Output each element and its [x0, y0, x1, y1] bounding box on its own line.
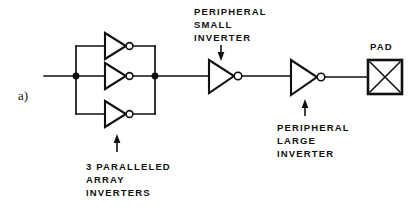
- array-inverters-label-line3: INVERTERS: [86, 187, 151, 198]
- peripheral-small-inverter-label-line1: PERIPHERAL: [194, 6, 267, 17]
- peripheral-large-inverter-label-line1: PERIPHERAL: [277, 122, 350, 133]
- peripheral-small-inverter-triangle: [209, 60, 234, 93]
- array-inverter-1-bubble: [126, 43, 133, 50]
- pad-label: PAD: [370, 41, 393, 52]
- circuit-figure: a) PAD PERIPHERAL SMALL INVERTER PERIPHE…: [0, 0, 415, 211]
- peripheral-large-inverter-label-line3: INVERTER: [277, 148, 334, 159]
- peripheral-large-inverter-label-line2: LARGE: [277, 135, 316, 146]
- peripheral-small-inverter-arrow-down-icon: [218, 52, 225, 61]
- array-inverters-arrow-up-icon: [114, 134, 121, 143]
- peripheral-large-inverter-arrow-up-icon: [302, 99, 309, 108]
- peripheral-large-inverter-bubble: [317, 73, 325, 81]
- peripheral-large-inverter-triangle: [291, 60, 317, 95]
- peripheral-small-inverter-label-line3: INVERTER: [194, 32, 251, 43]
- array-inverter-1-triangle: [105, 33, 126, 59]
- array-inverters-label-line2: ARRAY: [86, 174, 125, 185]
- peripheral-small-inverter-bubble: [234, 72, 242, 80]
- peripheral-small-inverter-label-line2: SMALL: [194, 19, 232, 30]
- array-inverter-2-bubble: [126, 73, 133, 80]
- array-inverter-2-triangle: [105, 63, 126, 89]
- panel-label: a): [18, 88, 28, 103]
- array-inverter-3-bubble: [126, 111, 133, 118]
- array-inverter-3-triangle: [105, 101, 126, 127]
- array-inverters-label-line1: 3 PARALLELED: [86, 161, 171, 172]
